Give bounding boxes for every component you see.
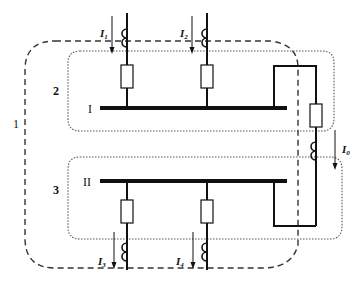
feeder-3 bbox=[112, 181, 134, 270]
feeder-2 bbox=[190, 13, 214, 108]
current-label-i4: I4 bbox=[175, 255, 184, 269]
zone-2-label: 2 bbox=[53, 84, 59, 98]
zone-3-label: 3 bbox=[53, 183, 59, 197]
bus-coupler bbox=[274, 66, 338, 226]
current-label-i2: I2 bbox=[179, 27, 188, 41]
coupler-breaker bbox=[310, 104, 322, 127]
current-label-i3: I3 bbox=[97, 255, 106, 269]
breaker-3 bbox=[121, 200, 133, 223]
breaker-1 bbox=[121, 65, 133, 88]
bus-1-label: I bbox=[88, 102, 92, 116]
current-label-i1: I1 bbox=[99, 27, 108, 41]
feeder-4 bbox=[191, 181, 214, 270]
current-label-i0: I0 bbox=[341, 143, 350, 157]
zone-2-dotted-boundary bbox=[68, 51, 334, 131]
breaker-2 bbox=[201, 65, 213, 88]
busbar-protection-diagram: 1 2 3 I II I1 I2 I3 I4 I0 bbox=[0, 0, 362, 281]
zone-1-label: 1 bbox=[13, 117, 19, 131]
breaker-4 bbox=[201, 200, 213, 223]
bus-2-label: II bbox=[83, 175, 91, 189]
zone-1-dashed-boundary bbox=[25, 41, 298, 268]
feeder-1 bbox=[110, 13, 134, 108]
